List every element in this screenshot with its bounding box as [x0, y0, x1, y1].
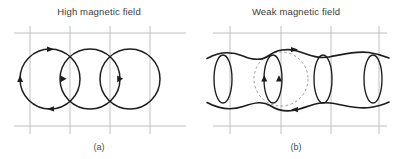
orbit-direction-arrow-bottom: [47, 106, 54, 111]
orbit-direction-arrow-top: [47, 47, 54, 52]
panel-b-title: Weak magnetic field: [197, 6, 395, 18]
weak-field-orbit-3: [314, 55, 332, 103]
drift-trajectory-upper: [207, 50, 389, 60]
drift-arrow-lower: [291, 107, 298, 112]
cyclotron-orbit-2: [60, 49, 120, 109]
panel-b-caption: (b): [197, 142, 395, 153]
orbit2-direction-arrow-left: [61, 76, 67, 83]
cyclotron-orbit-3: [100, 49, 160, 109]
panel-a-diagram: [0, 20, 198, 138]
panel-weak-magnetic-field: Weak magnetic field: [197, 0, 395, 159]
panel-b-diagram: [197, 20, 395, 138]
orbit-direction-arrow-left: [17, 75, 23, 82]
panel-a-title: High magnetic field: [0, 6, 198, 18]
panel-high-magnetic-field: High magnetic field (a): [0, 0, 198, 159]
panel-a-caption: (a): [0, 142, 198, 153]
figure-root: High magnetic field (a): [0, 0, 395, 159]
weak-field-orbit-1: [214, 55, 232, 103]
cyclotron-orbit-1: [20, 49, 80, 109]
weak-orbit-arrow-left: [261, 75, 267, 81]
